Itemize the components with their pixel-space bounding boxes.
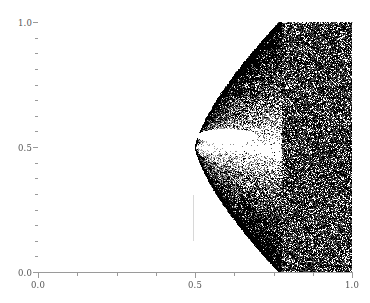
y-ticklabel-1: 1.0 [6,18,32,28]
y-ticklabel-0: 0.0 [6,268,32,278]
x-ticklabel-1: 1.0 [337,280,367,290]
x-minor-tick-3 [234,273,235,276]
vline-fragment-annotation [193,195,194,241]
x-minor-tick-4 [274,273,275,276]
y-minor-tick-8 [35,116,38,117]
x-minor-tick-0 [77,273,78,276]
y-minor-tick-10 [35,85,38,86]
y-minor-tick-1 [35,241,38,242]
scatter-canvas [38,22,352,272]
plot-area [38,22,352,272]
x-major-tick-2 [352,273,353,278]
y-minor-tick-9 [35,100,38,101]
y-minor-tick-3 [35,210,38,211]
x-major-tick-1 [195,273,196,278]
y-minor-tick-6 [35,163,38,164]
scatter-point-cloud [38,22,352,272]
x-ticklabel-0: 0.0 [23,280,53,290]
x-minor-tick-1 [117,273,118,276]
y-minor-tick-4 [35,194,38,195]
x-minor-tick-5 [313,273,314,276]
y-minor-tick-7 [35,131,38,132]
y-major-tick-1 [33,147,38,148]
x-major-tick-0 [38,273,39,278]
x-ticklabel-0-5: 0.5 [180,280,210,290]
y-minor-tick-5 [35,178,38,179]
x-minor-tick-2 [156,273,157,276]
y-major-tick-0 [33,272,38,273]
y-minor-tick-12 [35,53,38,54]
y-minor-tick-2 [35,225,38,226]
y-ticklabel-0-5: 0.5 [6,143,32,153]
y-minor-tick-11 [35,69,38,70]
chart-figure: 1.0 0.5 0.0 0.0 0.5 1.0 [0,0,370,303]
y-minor-tick-13 [35,38,38,39]
y-minor-tick-0 [35,256,38,257]
y-major-tick-2 [33,22,38,23]
